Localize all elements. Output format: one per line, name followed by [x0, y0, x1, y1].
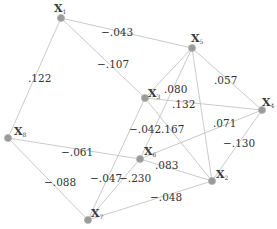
edge-x3-x4 — [145, 98, 262, 110]
node-label-x2: X2 — [216, 168, 229, 181]
edge-weight-label: −.107 — [97, 58, 129, 70]
node-label-x4: X4 — [262, 96, 275, 109]
edge-weight-label: −.130 — [223, 137, 255, 149]
edge-weight-label: .122 — [28, 72, 51, 84]
edge-weight-label: .071 — [213, 117, 236, 129]
edge-weight-label: .080 — [164, 83, 187, 95]
edge-weight-label: −.230 — [119, 172, 151, 184]
edge-weight-label: −.043 — [101, 26, 133, 38]
edge-weight-label: −.048 — [150, 191, 182, 203]
node-x6 — [136, 155, 143, 162]
edge-weight-label: −.047 — [90, 172, 122, 184]
nodes-layer: X1X5X3X4X8X6X2X7 — [4, 2, 274, 224]
edge-weight-label: .167 — [161, 123, 184, 135]
edge-weight-label: .132 — [172, 98, 195, 110]
edge-weight-label: −.088 — [44, 176, 76, 188]
edge-weight-label: .057 — [214, 74, 237, 86]
node-x5 — [188, 44, 195, 51]
graph-diagram: −.043.122−.107.080−.042.057.132.167−.047… — [0, 0, 277, 229]
node-x2 — [208, 177, 215, 184]
node-label-x5: X5 — [191, 32, 204, 45]
node-x1 — [57, 14, 64, 21]
node-label-x3: X3 — [148, 87, 161, 100]
node-label-x7: X7 — [91, 207, 104, 220]
node-label-x6: X6 — [144, 145, 157, 158]
edge-weight-label: −.042 — [129, 123, 161, 135]
node-label-x8: X8 — [14, 125, 27, 138]
node-x8 — [4, 134, 11, 141]
edge-weight-label: −.061 — [61, 146, 93, 158]
edge-weight-label: .083 — [155, 159, 178, 171]
node-label-x1: X1 — [54, 2, 66, 15]
edge-x5-x2 — [192, 48, 212, 181]
